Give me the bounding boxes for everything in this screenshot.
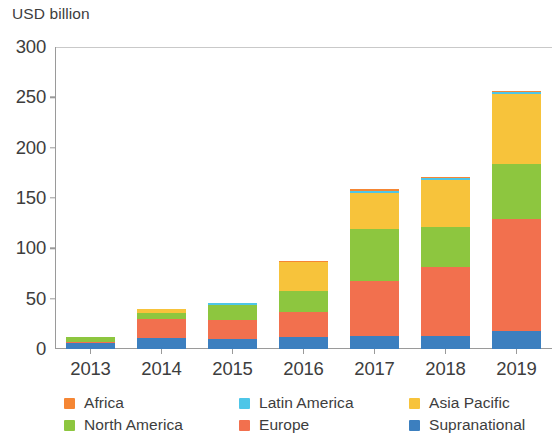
chart-legend: AfricaLatin AmericaAsia PacificNorth Ame… (64, 392, 544, 436)
bar-stack-2019 (492, 91, 541, 349)
legend-item-supranational[interactable]: Supranational (409, 416, 555, 434)
bar-segment-north-america (208, 305, 257, 320)
bar-segment-north-america (350, 229, 399, 280)
bar-segment-supranational (492, 331, 541, 349)
plot-area: 050100150200250300 201320142015201620172… (55, 47, 552, 349)
bar-segment-asia-pacific (492, 94, 541, 163)
legend-label: Supranational (429, 416, 525, 434)
y-axis-tick-label: 100 (16, 237, 46, 259)
x-axis-tick-mark (90, 349, 91, 354)
legend-swatch-icon (239, 420, 250, 431)
legend-label: Africa (84, 394, 124, 412)
y-axis-tick-label: 250 (16, 86, 46, 108)
bar-stack-2013 (66, 337, 115, 349)
legend-label: Asia Pacific (429, 394, 510, 412)
bar-stack-2014 (137, 309, 186, 349)
bar-segment-north-america (492, 164, 541, 219)
legend-item-europe[interactable]: Europe (239, 416, 409, 434)
x-axis-tick-label-2014: 2014 (141, 358, 181, 380)
x-axis-tick-mark (232, 349, 233, 354)
legend-swatch-icon (64, 398, 75, 409)
legend-swatch-icon (409, 398, 420, 409)
bar-segment-north-america (279, 291, 328, 312)
bar-segment-europe (421, 267, 470, 335)
bar-stack-2018 (421, 177, 470, 349)
x-axis-tick-label-2017: 2017 (354, 358, 394, 380)
legend-label: Latin America (259, 394, 354, 412)
bar-segment-north-america (421, 227, 470, 267)
x-axis-tick-label-2016: 2016 (283, 358, 323, 380)
bar-stack-2017 (350, 189, 399, 349)
bar-segment-supranational (208, 339, 257, 349)
bar-segment-europe (279, 312, 328, 337)
x-axis-tick-label-2013: 2013 (70, 358, 110, 380)
y-axis-tick-label: 200 (16, 137, 46, 159)
bar-segment-europe (137, 319, 186, 338)
x-axis-tick-mark (161, 349, 162, 354)
legend-swatch-icon (409, 420, 420, 431)
y-axis-title: USD billion (12, 5, 90, 23)
x-axis-tick-label-2019: 2019 (496, 358, 536, 380)
bar-segment-asia-pacific (350, 193, 399, 229)
legend-swatch-icon (239, 398, 250, 409)
x-axis-tick-mark (303, 349, 304, 354)
bar-segment-supranational (350, 336, 399, 349)
bar-segment-europe (492, 219, 541, 331)
y-axis-tick-label: 150 (16, 187, 46, 209)
legend-item-asia-pacific[interactable]: Asia Pacific (409, 394, 555, 412)
bar-segment-asia-pacific (421, 180, 470, 227)
y-axis-tick-label: 50 (26, 288, 46, 310)
stacked-bar-chart-figure: USD billion 050100150200250300 201320142… (0, 0, 555, 436)
bar-series-container (55, 47, 552, 349)
x-axis-tick-mark (374, 349, 375, 354)
bar-segment-europe (350, 281, 399, 336)
x-axis-tick-label-2018: 2018 (425, 358, 465, 380)
legend-item-latin-america[interactable]: Latin America (239, 394, 409, 412)
bar-segment-asia-pacific (279, 262, 328, 290)
legend-label: Europe (259, 416, 309, 434)
bar-stack-2015 (208, 303, 257, 349)
bar-segment-supranational (279, 337, 328, 349)
bar-segment-supranational (137, 338, 186, 349)
bar-stack-2016 (279, 261, 328, 349)
x-axis-tick-label-2015: 2015 (212, 358, 252, 380)
y-axis-tick-label: 0 (36, 338, 46, 360)
bar-segment-europe (208, 320, 257, 339)
legend-swatch-icon (64, 420, 75, 431)
x-axis-tick-mark (516, 349, 517, 354)
legend-item-north-america[interactable]: North America (64, 416, 239, 434)
x-axis-tick-mark (445, 349, 446, 354)
y-axis-tick-label: 300 (16, 36, 46, 58)
legend-label: North America (84, 416, 183, 434)
bar-segment-supranational (421, 336, 470, 349)
legend-item-africa[interactable]: Africa (64, 394, 239, 412)
